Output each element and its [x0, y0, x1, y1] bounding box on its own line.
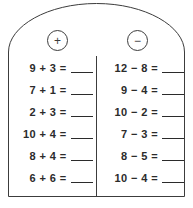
problem-expression: 2 + 3 =: [29, 106, 66, 118]
problem-expression: 7 + 1 =: [29, 84, 66, 96]
answer-blank[interactable]: [162, 85, 184, 95]
problem-expression: 8 − 5 =: [121, 150, 158, 162]
problem-row: 8 − 5 =: [101, 145, 185, 167]
problem-expression: 10 + 4 =: [23, 128, 67, 140]
problem-expression: 10 − 2 =: [114, 106, 158, 118]
answer-blank[interactable]: [71, 129, 93, 139]
answer-blank[interactable]: [162, 107, 184, 117]
plus-icon: +: [47, 30, 68, 51]
problem-row: 7 + 1 =: [9, 79, 93, 101]
problem-row: 9 − 4 =: [101, 79, 185, 101]
minus-icon: −: [127, 30, 148, 51]
problem-expression: 9 − 4 =: [121, 84, 158, 96]
problem-row: 10 + 4 =: [9, 123, 93, 145]
problem-row: 8 + 4 =: [9, 145, 93, 167]
problem-row: 10 − 2 =: [101, 101, 185, 123]
answer-blank[interactable]: [71, 107, 93, 117]
problem-expression: 6 + 6 =: [29, 172, 66, 184]
problem-row: 10 − 4 =: [101, 167, 185, 189]
subtraction-column: 12 − 8 = 9 − 4 = 10 − 2 = 7 − 3 = 8 − 5 …: [97, 55, 185, 195]
answer-blank[interactable]: [162, 151, 184, 161]
problem-expression: 9 + 3 =: [29, 62, 66, 74]
answer-blank[interactable]: [162, 173, 184, 183]
problem-row: 9 + 3 =: [9, 57, 93, 79]
answer-blank[interactable]: [71, 173, 93, 183]
problem-expression: 7 − 3 =: [121, 128, 158, 140]
answer-blank[interactable]: [162, 63, 184, 73]
problem-row: 7 − 3 =: [101, 123, 185, 145]
answer-blank[interactable]: [71, 63, 93, 73]
answer-blank[interactable]: [71, 151, 93, 161]
problem-expression: 10 − 4 =: [114, 172, 158, 184]
math-worksheet: + − 9 + 3 = 7 + 1 = 2 + 3 = 10 + 4 = 8 +…: [0, 0, 193, 208]
problem-row: 2 + 3 =: [9, 101, 93, 123]
answer-blank[interactable]: [71, 85, 93, 95]
problem-expression: 12 − 8 =: [114, 62, 158, 74]
problem-expression: 8 + 4 =: [29, 150, 66, 162]
addition-column: 9 + 3 = 7 + 1 = 2 + 3 = 10 + 4 = 8 + 4 =…: [9, 55, 97, 195]
problem-row: 6 + 6 =: [9, 167, 93, 189]
problem-columns: 9 + 3 = 7 + 1 = 2 + 3 = 10 + 4 = 8 + 4 =…: [9, 55, 184, 195]
answer-blank[interactable]: [162, 129, 184, 139]
problem-row: 12 − 8 =: [101, 57, 185, 79]
